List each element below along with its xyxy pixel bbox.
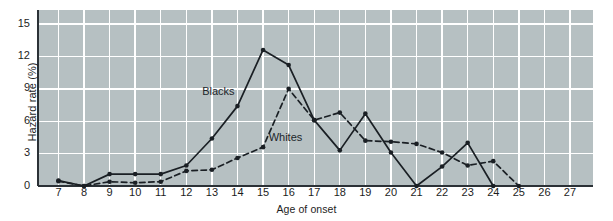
x-tick-label: 25: [507, 186, 531, 198]
data-point-marker: [107, 172, 112, 177]
data-point-marker: [414, 142, 419, 147]
data-point-marker: [465, 163, 470, 168]
x-tick-label: 24: [481, 186, 505, 198]
data-point-marker: [184, 169, 189, 174]
x-tick-label: 16: [277, 186, 301, 198]
data-point-marker: [286, 63, 291, 68]
x-axis-title: Age of onset: [0, 203, 613, 215]
hazard-rate-chart: 03691215 7891011121314151617181920212223…: [0, 0, 613, 221]
data-point-marker: [389, 150, 394, 155]
x-tick-label: 15: [251, 186, 275, 198]
data-point-marker: [363, 138, 368, 143]
x-tick-label: 18: [328, 186, 352, 198]
data-point-marker: [133, 172, 138, 177]
x-tick-label: 8: [72, 186, 96, 198]
x-tick-label: 10: [123, 186, 147, 198]
data-point-marker: [107, 179, 112, 184]
data-point-marker: [440, 150, 445, 155]
series-line-blacks: [58, 50, 493, 186]
data-point-marker: [491, 159, 496, 164]
data-point-marker: [363, 111, 368, 116]
data-point-marker: [158, 172, 163, 177]
x-tick-label: 27: [558, 186, 582, 198]
data-point-marker: [133, 180, 138, 185]
x-tick-label: 13: [200, 186, 224, 198]
x-tick-label: 26: [532, 186, 556, 198]
data-point-marker: [210, 168, 215, 173]
data-point-marker: [261, 48, 266, 53]
series-label-blacks: Blacks: [202, 85, 234, 97]
data-point-marker: [440, 164, 445, 169]
y-tick-label: 0: [4, 179, 30, 191]
x-tick-label: 9: [98, 186, 122, 198]
data-point-marker: [210, 136, 215, 141]
x-tick-label: 12: [174, 186, 198, 198]
data-point-marker: [235, 104, 240, 109]
data-point-marker: [465, 141, 470, 146]
x-tick-label: 14: [225, 186, 249, 198]
y-tick-label: 15: [4, 17, 30, 29]
data-point-marker: [235, 156, 240, 161]
data-point-marker: [389, 139, 394, 144]
data-point-marker: [312, 118, 317, 123]
x-tick-label: 7: [46, 186, 70, 198]
data-point-marker: [286, 87, 291, 92]
x-tick-label: 22: [430, 186, 454, 198]
data-point-marker: [184, 163, 189, 168]
data-point-marker: [56, 179, 61, 184]
axis-layer: [38, 10, 593, 186]
data-point-marker: [158, 179, 163, 184]
data-point-marker: [261, 145, 266, 150]
x-tick-label: 11: [149, 186, 173, 198]
x-tick-label: 20: [379, 186, 403, 198]
x-tick-label: 19: [353, 186, 377, 198]
grid-layer: [38, 10, 593, 186]
data-point-marker: [338, 148, 343, 153]
data-point-marker: [338, 110, 343, 115]
series-label-whites: Whites: [269, 131, 303, 143]
x-tick-label: 23: [456, 186, 480, 198]
x-tick-label: 21: [405, 186, 429, 198]
y-axis-title: Hazard rate (%): [26, 32, 38, 172]
x-tick-label: 17: [302, 186, 326, 198]
